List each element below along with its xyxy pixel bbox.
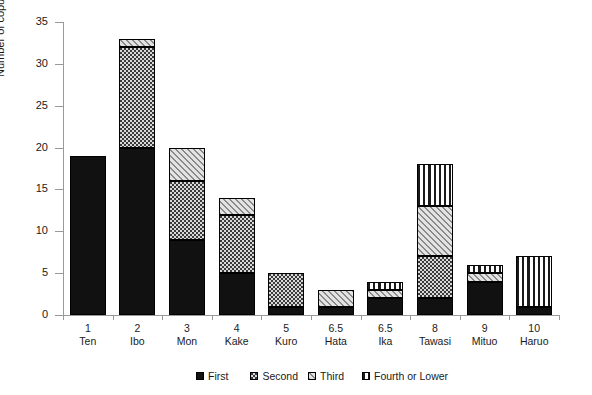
bar-hata xyxy=(318,22,354,315)
x-axis-category-haruo: 10Haruo xyxy=(504,322,564,348)
bar-kake xyxy=(219,22,255,315)
bar-segment-third xyxy=(119,39,155,47)
bar-ika xyxy=(367,22,403,315)
bar-haruo xyxy=(516,22,552,315)
bar-segment-first xyxy=(70,156,106,315)
bar-segment-fourth-or-lower xyxy=(367,282,403,290)
y-axis-tick-mark xyxy=(55,148,63,149)
legend-label: Second xyxy=(262,370,298,382)
bar-segment-fourth-or-lower xyxy=(516,256,552,306)
y-axis-tick-mark xyxy=(55,22,63,23)
bar-segment-second xyxy=(219,215,255,274)
x-axis-tick-mark xyxy=(212,315,213,320)
legend-label: First xyxy=(208,370,228,382)
x-axis-name-label: Haruo xyxy=(504,335,564,348)
bar-segment-second xyxy=(417,256,453,298)
bar-segment-third xyxy=(219,198,255,215)
chart-legend: FirstSecondThirdFourth or Lower xyxy=(196,368,448,384)
bar-segment-first xyxy=(219,273,255,315)
stacked-bar-chart: Number of copulations 05101520253035 1Te… xyxy=(0,0,592,395)
legend-swatch-solid-black-icon xyxy=(196,372,204,380)
plot-area xyxy=(63,22,559,315)
y-axis-tick-label: 30 xyxy=(0,58,48,69)
x-axis-tick-mark xyxy=(261,315,262,320)
x-axis-tick-mark xyxy=(311,315,312,320)
bar-segment-fourth-or-lower xyxy=(467,265,503,273)
y-axis-tick-label: 35 xyxy=(0,16,48,27)
y-axis-tick-mark xyxy=(55,64,63,65)
bar-segment-second xyxy=(169,181,205,240)
legend-item-third[interactable]: Third xyxy=(308,370,344,382)
y-axis-tick-label: 5 xyxy=(0,267,48,278)
y-axis-tick-label: 10 xyxy=(0,225,48,236)
bar-segment-third xyxy=(417,206,453,256)
bar-ibo xyxy=(119,22,155,315)
legend-swatch-light-diagonal-hatch-icon xyxy=(308,372,316,380)
x-axis-tick-mark xyxy=(63,315,64,320)
y-axis-tick-label: 15 xyxy=(0,183,48,194)
legend-swatch-dark-checker-icon xyxy=(250,372,258,380)
x-axis-tick-mark xyxy=(410,315,411,320)
bar-segment-first xyxy=(169,240,205,315)
bar-segment-first xyxy=(516,307,552,315)
x-axis-tick-mark xyxy=(361,315,362,320)
bar-mituo xyxy=(467,22,503,315)
y-axis-tick-mark xyxy=(55,189,63,190)
bar-segment-first xyxy=(417,298,453,315)
y-axis-tick-mark xyxy=(55,106,63,107)
legend-label: Fourth or Lower xyxy=(374,370,448,382)
x-axis-rank-label: 10 xyxy=(504,322,564,335)
bar-segment-first xyxy=(119,148,155,315)
y-axis-tick-mark xyxy=(55,315,63,316)
y-axis-tick-mark xyxy=(55,273,63,274)
bar-segment-fourth-or-lower xyxy=(417,164,453,206)
x-axis-tick-mark xyxy=(559,315,560,320)
bar-segment-third xyxy=(467,273,503,281)
y-axis-tick-mark xyxy=(55,231,63,232)
y-axis-tick-label: 20 xyxy=(0,142,48,153)
bar-segment-first xyxy=(467,282,503,315)
legend-swatch-vertical-stripes-icon xyxy=(362,372,370,380)
legend-item-second[interactable]: Second xyxy=(250,370,298,382)
bar-segment-first xyxy=(318,307,354,315)
bar-ten xyxy=(70,22,106,315)
x-axis-tick-mark xyxy=(162,315,163,320)
bar-tawasi xyxy=(417,22,453,315)
legend-item-first[interactable]: First xyxy=(196,370,228,382)
x-axis-tick-mark xyxy=(509,315,510,320)
x-axis-tick-mark xyxy=(460,315,461,320)
bar-segment-first xyxy=(268,307,304,315)
bar-kuro xyxy=(268,22,304,315)
bar-segment-third xyxy=(169,148,205,181)
bar-segment-third xyxy=(367,290,403,298)
y-axis-tick-label: 0 xyxy=(0,309,48,320)
bar-mon xyxy=(169,22,205,315)
bar-segment-second xyxy=(268,273,304,306)
legend-label: Third xyxy=(320,370,344,382)
y-axis-tick-label: 25 xyxy=(0,100,48,111)
bar-segment-third xyxy=(318,290,354,307)
bar-segment-first xyxy=(367,298,403,315)
x-axis-tick-mark xyxy=(113,315,114,320)
bar-segment-second xyxy=(119,47,155,147)
legend-item-fourth-or-lower[interactable]: Fourth or Lower xyxy=(362,370,448,382)
